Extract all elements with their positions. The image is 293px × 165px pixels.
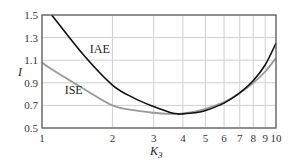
x-tick-label: 8 [251,132,257,144]
x-axis-ticks: 12345678910 [39,132,282,144]
chart: 0.50.70.91.11.31.5 12345678910 IAEISE I … [0,0,293,165]
y-tick-label: 0.5 [24,122,38,134]
data-curves [42,15,276,114]
x-axis-label: K3 [149,144,163,160]
curve-iae [52,15,276,114]
y-tick-label: 1.1 [24,54,38,66]
y-tick-label: 0.7 [24,99,38,111]
y-tick-label: 1.3 [24,32,38,44]
y-axis-label: I [17,65,23,79]
annotation-ise: ISE [65,83,83,97]
x-tick-label: 10 [271,132,283,144]
grid-lines [42,15,276,128]
y-tick-label: 0.9 [24,77,38,89]
x-tick-label: 3 [151,132,157,144]
x-tick-label: 7 [237,132,243,144]
x-tick-label: 2 [110,132,116,144]
y-axis-ticks: 0.50.70.91.11.31.5 [24,9,38,134]
x-tick-label: 4 [180,132,186,144]
x-tick-label: 1 [39,132,45,144]
y-tick-label: 1.5 [24,9,38,21]
annotation-iae: IAE [90,42,110,56]
curve-labels: IAEISE [65,42,110,97]
plot-frame [42,15,276,128]
x-tick-label: 5 [203,132,209,144]
x-tick-label: 9 [263,132,269,144]
x-tick-label: 6 [221,132,227,144]
